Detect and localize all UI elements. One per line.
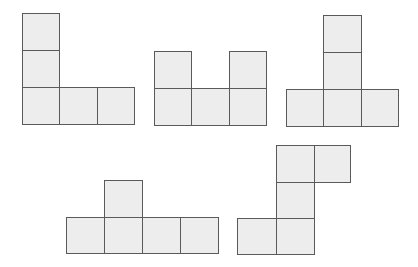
square-cell bbox=[66, 217, 105, 254]
square-cell bbox=[180, 217, 219, 254]
square-cell bbox=[323, 89, 362, 127]
square-cell bbox=[276, 218, 315, 255]
square-cell bbox=[314, 145, 351, 183]
square-cell bbox=[276, 182, 315, 219]
square-cell bbox=[323, 15, 362, 53]
square-cell bbox=[276, 145, 315, 183]
square-cell bbox=[323, 52, 362, 90]
square-cell bbox=[59, 87, 98, 125]
square-cell bbox=[22, 13, 60, 51]
square-cell bbox=[229, 51, 267, 89]
square-cell bbox=[154, 88, 192, 126]
square-cell bbox=[22, 87, 60, 125]
square-cell bbox=[237, 218, 277, 255]
square-cell bbox=[361, 89, 399, 127]
square-cell bbox=[154, 51, 192, 89]
square-cell bbox=[142, 217, 181, 254]
square-cell bbox=[22, 50, 60, 88]
square-cell bbox=[104, 217, 143, 254]
square-cell bbox=[104, 180, 143, 218]
square-cell bbox=[191, 88, 230, 126]
square-cell bbox=[286, 89, 324, 127]
square-cell bbox=[97, 87, 135, 125]
square-cell bbox=[229, 88, 267, 126]
